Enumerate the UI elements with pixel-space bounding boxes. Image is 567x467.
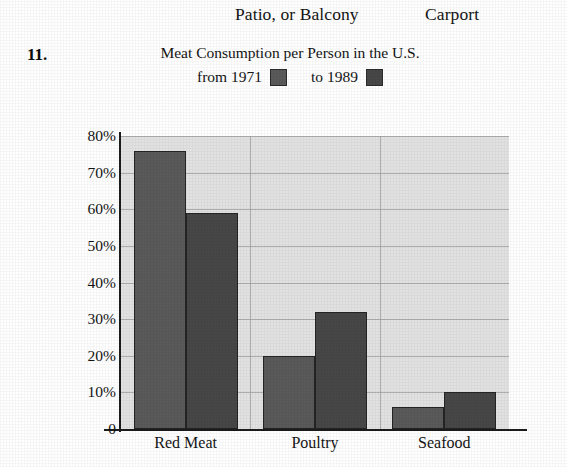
problem-number: 11.: [27, 45, 47, 65]
y-tick-label: 50%: [70, 238, 116, 253]
x-tick-label: Poultry: [250, 434, 379, 452]
y-tick-label: 40%: [70, 275, 116, 290]
header-fragment-left: Patio, or Balcony: [235, 4, 359, 25]
y-tick-label: 80%: [70, 128, 116, 143]
bar-red-meat-1989: [186, 213, 238, 429]
page-header-fragment: Patio, or Balcony Carport: [0, 2, 567, 28]
y-tick-label: 30%: [70, 311, 116, 326]
y-tick-label: 60%: [70, 201, 116, 216]
gridline-vertical: [250, 136, 251, 429]
y-tick-label: 70%: [70, 165, 116, 180]
header-fragment-right: Carport: [425, 4, 479, 25]
x-tick-label: Seafood: [380, 434, 509, 452]
y-axis-tick-labels: 80%70%60%50%40%30%20%10%0: [66, 0, 116, 467]
legend-label-1971: from 1971: [197, 66, 262, 88]
x-tick-label: Red Meat: [121, 434, 250, 452]
gridline-vertical: [380, 136, 381, 429]
legend-label-1989: to 1989: [311, 66, 358, 88]
bar-poultry-1989: [315, 312, 367, 429]
gridline-horizontal: [121, 136, 509, 137]
chart-legend-inline: from 1971 to 1989: [120, 66, 460, 88]
bar-poultry-1971: [263, 356, 315, 429]
bar-seafood-1971: [392, 407, 444, 429]
chart-title-block: Meat Consumption per Person in the U.S. …: [120, 42, 460, 88]
plot-area: [121, 136, 509, 429]
page-canvas: Patio, or Balcony Carport 11. Meat Consu…: [0, 0, 567, 467]
y-tick-label: 10%: [70, 384, 116, 399]
x-axis-line: [104, 429, 527, 431]
y-tick-label: 0: [70, 421, 116, 436]
y-tick-label: 20%: [70, 348, 116, 363]
legend-swatch-1989: [366, 69, 383, 86]
chart-title-line-1: Meat Consumption per Person in the U.S.: [120, 42, 460, 64]
bar-red-meat-1971: [134, 151, 186, 429]
legend-swatch-1971: [270, 69, 287, 86]
bar-seafood-1989: [444, 392, 496, 429]
